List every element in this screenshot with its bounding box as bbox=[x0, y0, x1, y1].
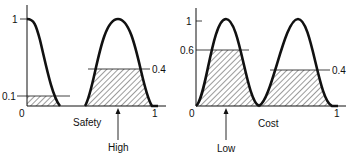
cost-y-tick-0.6: 0.6 bbox=[180, 45, 194, 56]
safety-arrow-label: High bbox=[108, 142, 129, 153]
safety-y-tick-1: 1 bbox=[12, 14, 18, 25]
safety-y-tick-0.1: 0.1 bbox=[2, 91, 16, 102]
cost-level-label-0.4: 0.4 bbox=[332, 65, 346, 76]
safety-x-tick-0: 0 bbox=[19, 108, 25, 119]
safety-level-label-0.4: 0.4 bbox=[152, 64, 166, 75]
cost-x-label: Cost bbox=[258, 118, 279, 129]
safety-low-hatched-area bbox=[27, 96, 67, 106]
cost-chart: 1 0.6 0.4 0 1 Cost Low bbox=[180, 8, 346, 154]
fuzzy-membership-figure: 1 0.1 0.4 0 1 Safety High 1 0.6 0.4 0 1 … bbox=[0, 0, 351, 156]
cost-arrow-label: Low bbox=[217, 143, 236, 154]
safety-x-label: Safety bbox=[73, 117, 101, 128]
safety-chart: 1 0.1 0.4 0 1 Safety High bbox=[2, 5, 166, 153]
cost-x-tick-0: 0 bbox=[189, 108, 195, 119]
cost-y-tick-1: 1 bbox=[186, 16, 192, 27]
safety-low-curve bbox=[27, 19, 60, 106]
safety-x-tick-1: 1 bbox=[152, 108, 158, 119]
cost-x-tick-1: 1 bbox=[334, 108, 340, 119]
